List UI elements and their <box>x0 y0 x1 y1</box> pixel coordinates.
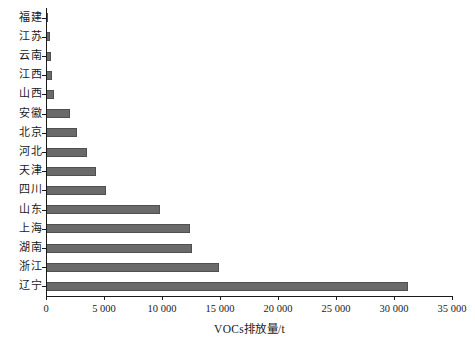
y-axis-tick-label: 辽宁 <box>4 280 42 291</box>
y-tick <box>42 56 46 57</box>
x-tick <box>220 296 221 300</box>
y-axis-tick-label: 江西 <box>4 69 42 80</box>
y-axis-tick-label: 天津 <box>4 165 42 176</box>
x-tick <box>46 296 47 300</box>
y-tick <box>42 210 46 211</box>
y-tick <box>42 267 46 268</box>
bar <box>46 109 70 118</box>
x-axis-title: VOCs排放量/t <box>46 320 453 336</box>
x-tick <box>278 296 279 300</box>
plot-area <box>46 8 452 296</box>
y-axis-tick-label: 浙江 <box>4 261 42 272</box>
y-axis-tick-label: 江苏 <box>4 31 42 42</box>
y-axis-tick-label: 湖南 <box>4 242 42 253</box>
y-tick <box>42 114 46 115</box>
x-tick <box>394 296 395 300</box>
bar <box>46 282 408 291</box>
y-tick <box>42 133 46 134</box>
y-axis-tick-label: 北京 <box>4 127 42 138</box>
x-axis-tick-label: 10 000 <box>148 303 177 314</box>
bar <box>46 128 77 137</box>
x-axis-tick-label: 20 000 <box>264 303 293 314</box>
x-axis-tick-label: 5 000 <box>92 303 116 314</box>
x-axis-line <box>46 296 453 297</box>
y-tick <box>42 171 46 172</box>
y-tick <box>42 248 46 249</box>
chart-figure: 福建江苏云南江西山西安徽北京河北天津四川山东上海湖南浙江辽宁 05 00010 … <box>0 0 475 352</box>
y-axis-tick-label: 四川 <box>4 184 42 195</box>
x-axis-tick-label: 15 000 <box>206 303 235 314</box>
y-axis-line <box>46 8 47 297</box>
x-tick <box>336 296 337 300</box>
y-axis-tick-label: 山东 <box>4 204 42 215</box>
bar <box>46 205 160 214</box>
x-axis-tick-label: 30 000 <box>380 303 409 314</box>
bar <box>46 263 219 272</box>
y-tick <box>42 94 46 95</box>
y-axis-tick-label: 山西 <box>4 88 42 99</box>
y-axis-tick-label: 河北 <box>4 146 42 157</box>
bar <box>46 167 96 176</box>
y-tick <box>42 37 46 38</box>
y-tick <box>42 190 46 191</box>
bar <box>46 224 190 233</box>
x-tick <box>452 296 453 300</box>
x-axis-tick-label: 0 <box>43 303 48 314</box>
y-tick <box>42 229 46 230</box>
bar <box>46 148 87 157</box>
y-axis-tick-label: 云南 <box>4 50 42 61</box>
x-axis-tick-label: 35 000 <box>438 303 467 314</box>
y-axis-tick-label: 福建 <box>4 12 42 23</box>
y-axis-tick-label: 安徽 <box>4 108 42 119</box>
bar <box>46 244 192 253</box>
x-tick <box>162 296 163 300</box>
bar <box>46 90 54 99</box>
x-axis-tick-label: 25 000 <box>322 303 351 314</box>
y-tick <box>42 75 46 76</box>
y-axis-labels: 福建江苏云南江西山西安徽北京河北天津四川山东上海湖南浙江辽宁 <box>0 0 42 352</box>
y-tick <box>42 152 46 153</box>
bar <box>46 186 106 195</box>
y-axis-tick-label: 上海 <box>4 223 42 234</box>
y-tick <box>42 286 46 287</box>
y-tick <box>42 18 46 19</box>
x-tick <box>104 296 105 300</box>
